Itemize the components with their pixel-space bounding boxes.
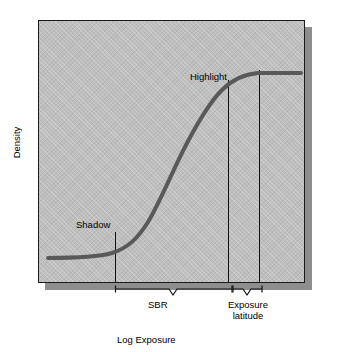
x-axis-label: Log Exposure — [117, 334, 176, 345]
characteristic-curve-figure: Density Shadow Highlight SBR Exposure la… — [0, 0, 337, 352]
shadow-label: Shadow — [76, 219, 110, 230]
exposure-latitude-label: Exposure latitude — [218, 299, 278, 321]
highlight-label: Highlight — [190, 71, 227, 82]
plot-panel — [38, 20, 305, 283]
y-axis-label: Density — [11, 113, 22, 173]
sbr-label: SBR — [148, 299, 168, 310]
